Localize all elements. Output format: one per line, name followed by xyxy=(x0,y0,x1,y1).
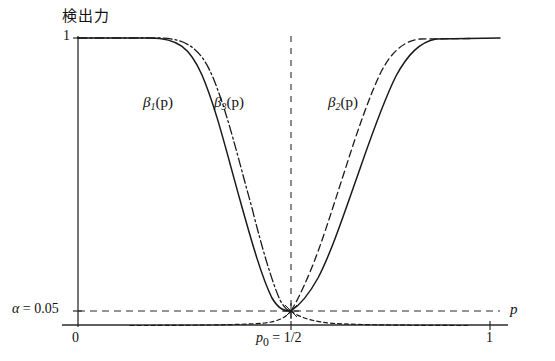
y-axis-caption: 検出力 xyxy=(62,4,110,25)
beta2-arg: (p) xyxy=(340,94,358,110)
p0-equals: = xyxy=(269,330,284,345)
curve-beta2-tail xyxy=(130,311,291,326)
y-tick-label-one: 1 xyxy=(63,28,70,44)
reference-lines-group xyxy=(78,36,500,325)
curve-beta1 xyxy=(78,38,291,311)
curve-beta1-tail xyxy=(291,311,470,326)
x-tick-label-p0: p0 = 1/2 xyxy=(256,330,302,349)
curve-label-beta2: β2(p) xyxy=(328,94,358,112)
curve-beta3-right xyxy=(291,39,470,312)
alpha-value: 0.05 xyxy=(34,301,59,316)
power-curve-figure xyxy=(0,0,555,361)
beta1-arg: (p) xyxy=(155,94,173,110)
curve-beta3-left xyxy=(78,38,291,311)
p0-symbol: p xyxy=(256,330,263,345)
curve-label-beta1: β1(p) xyxy=(143,94,173,112)
alpha-equals: = xyxy=(19,301,34,316)
x-tick-label-zero: 0 xyxy=(72,330,79,346)
p0-value: 1/2 xyxy=(284,330,302,345)
convergence-point xyxy=(283,303,299,319)
axes-group xyxy=(62,36,508,330)
curve-beta2 xyxy=(291,38,500,311)
curve-label-beta3: β3(p) xyxy=(214,94,244,112)
beta3-arg: (p) xyxy=(226,94,244,110)
x-tick-label-one: 1 xyxy=(486,330,493,346)
alpha-level-label: α = 0.05 xyxy=(12,301,59,317)
x-axis-name: p xyxy=(510,301,518,318)
